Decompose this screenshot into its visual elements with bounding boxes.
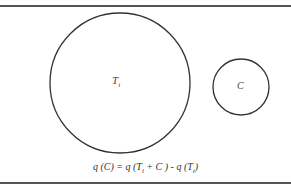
label-c: C [237,80,244,91]
label-ti: Ti [112,74,120,89]
venn-diagram [0,0,291,188]
bottom-border [0,182,291,184]
formula: q (C) = q (Ti + C ) - q (Ti) [0,161,291,175]
